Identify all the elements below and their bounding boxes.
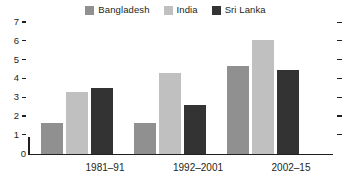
y-axis-tick-mark	[22, 40, 26, 41]
y-axis-tick-mark	[22, 59, 26, 60]
y-axis-tick-label: 5	[14, 55, 19, 65]
y-axis-right-tick-7	[337, 22, 342, 23]
y-axis-tick-1: 1	[2, 129, 26, 141]
grouped-bar-chart: Bangladesh India Sri Lanka 76543210 1981…	[0, 0, 351, 179]
bar-sri-lanka-1	[184, 105, 206, 154]
y-axis-right-tick-6	[337, 40, 342, 41]
legend-label-sri-lanka: Sri Lanka	[225, 5, 266, 15]
plot-area: 76543210	[28, 22, 333, 155]
legend-item-india: India	[164, 5, 198, 15]
bar-bangladesh-2	[227, 66, 249, 153]
y-axis-tick-label: 7	[14, 17, 19, 27]
legend-swatch-icon-bangladesh	[85, 6, 94, 15]
legend-swatch-icon-india	[164, 6, 173, 15]
chart-legend: Bangladesh India Sri Lanka	[0, 2, 351, 18]
y-axis-right-tick-4	[337, 78, 342, 79]
x-axis-label-2: 2002–15	[241, 161, 341, 174]
bar-sri-lanka-2	[277, 70, 299, 154]
y-axis-tick-mark	[22, 21, 26, 22]
legend-label-bangladesh: Bangladesh	[98, 5, 149, 15]
bar-bangladesh-1	[134, 123, 156, 154]
x-axis-label-1: 1992–2001	[148, 161, 248, 174]
y-axis-tick-6: 6	[2, 35, 26, 47]
y-axis-tick-label: 3	[14, 92, 19, 102]
legend-swatch-icon-sri-lanka	[212, 6, 221, 15]
y-axis-tick-mark	[22, 97, 26, 98]
y-axis-right-tick-1	[337, 134, 342, 135]
y-axis-right-tick-2	[337, 115, 342, 116]
y-axis-tick-label: 1	[14, 130, 19, 140]
y-axis-tick-label: 0	[21, 149, 26, 159]
bar-sri-lanka-0	[91, 88, 113, 154]
y-axis-right-tick-5	[337, 59, 342, 60]
y-axis-tick-0: 0	[2, 148, 26, 160]
y-axis-tick-4: 4	[2, 72, 26, 84]
y-axis-tick-label: 2	[14, 111, 19, 121]
x-axis-line	[28, 154, 333, 156]
y-axis-tick-label: 4	[14, 73, 19, 83]
bar-india-2	[252, 40, 274, 154]
y-axis-tick-label: 6	[14, 36, 19, 46]
y-axis-tick-mark	[22, 115, 26, 116]
y-axis-stub-line	[28, 137, 30, 155]
y-axis-tick-3: 3	[2, 91, 26, 103]
y-axis-tick-mark	[22, 134, 26, 135]
bar-bangladesh-0	[41, 123, 63, 153]
legend-item-sri-lanka: Sri Lanka	[212, 5, 266, 15]
y-axis-right-tick-3	[337, 97, 342, 98]
legend-label-india: India	[177, 5, 198, 15]
y-axis-tick-5: 5	[2, 54, 26, 66]
y-axis-tick-2: 2	[2, 110, 26, 122]
x-axis-label-0: 1981–91	[55, 161, 155, 174]
y-axis-tick-mark	[22, 78, 26, 79]
legend-item-bangladesh: Bangladesh	[85, 5, 149, 15]
y-axis-tick-7: 7	[2, 16, 26, 28]
bar-india-1	[159, 73, 181, 154]
bar-india-0	[66, 92, 88, 154]
